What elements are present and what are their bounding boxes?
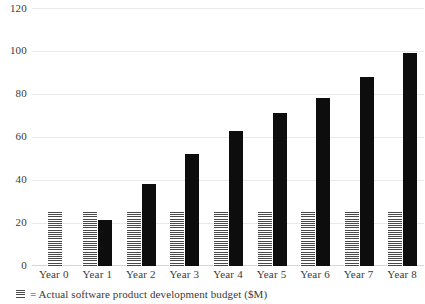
x-tick-label: Year 5	[250, 268, 294, 281]
y-tick-label: 40	[0, 174, 27, 185]
bar-actual	[98, 220, 112, 266]
y-tick-label: 100	[0, 45, 27, 56]
legend-label: = Actual software product development bu…	[30, 288, 267, 300]
x-axis-labels: Year 0Year 1Year 2Year 3Year 4Year 5Year…	[32, 268, 424, 284]
bar-group	[32, 8, 76, 266]
bar-planned	[300, 212, 316, 266]
legend-hatched-swatch-icon	[16, 290, 25, 298]
x-tick-label: Year 1	[76, 268, 120, 281]
y-tick-label: 120	[0, 3, 27, 14]
x-tick-label: Year 4	[206, 268, 250, 281]
bar-planned	[387, 212, 403, 266]
x-tick-label: Year 6	[293, 268, 337, 281]
x-tick-label: Year 2	[119, 268, 163, 281]
bar-group	[76, 8, 120, 266]
x-tick-label: Year 7	[337, 268, 381, 281]
bar-actual	[142, 184, 156, 266]
bar-actual	[403, 53, 417, 266]
bar-group	[380, 8, 424, 266]
y-tick-label: 80	[0, 88, 27, 99]
bar-group	[293, 8, 337, 266]
bar-planned	[213, 212, 229, 266]
bar-actual	[360, 77, 374, 266]
x-tick-label: Year 3	[163, 268, 207, 281]
bar-chart: 120 100 80 60 40 20 0 Year 0Year 1Year 2…	[0, 0, 425, 304]
bar-planned	[47, 212, 63, 266]
bar-actual	[316, 98, 330, 266]
bar-actual	[185, 154, 199, 266]
y-tick-label: 60	[0, 131, 27, 142]
bar-planned	[126, 212, 142, 266]
bar-planned	[344, 212, 360, 266]
bar-group	[337, 8, 381, 266]
bar-group	[250, 8, 294, 266]
chart-legend: = Actual software product development bu…	[16, 288, 267, 300]
bar-planned	[169, 212, 185, 266]
x-tick-label: Year 0	[32, 268, 76, 281]
plot-area	[32, 8, 424, 266]
bar-group	[163, 8, 207, 266]
bars-layer	[32, 8, 424, 266]
bar-group	[119, 8, 163, 266]
bar-group	[206, 8, 250, 266]
bar-planned	[82, 212, 98, 266]
x-tick-label: Year 8	[380, 268, 424, 281]
y-tick-label: 0	[0, 260, 27, 271]
bar-actual	[229, 131, 243, 266]
y-tick-label: 20	[0, 217, 27, 228]
bar-actual	[273, 113, 287, 266]
bar-planned	[257, 212, 273, 266]
